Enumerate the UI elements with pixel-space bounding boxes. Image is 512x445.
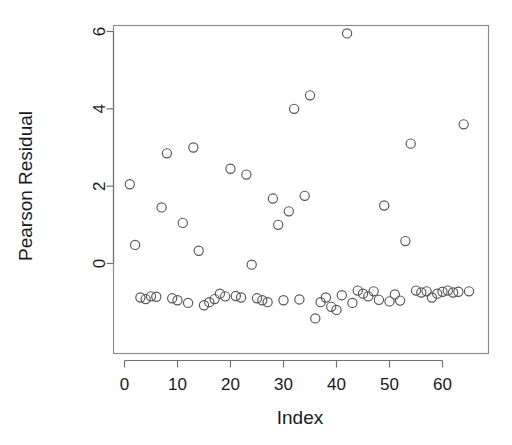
data-point — [274, 220, 283, 229]
data-point — [199, 301, 208, 310]
data-point — [396, 296, 405, 305]
data-point — [332, 305, 341, 314]
data-point — [279, 296, 288, 305]
y-axis: 0246 — [90, 27, 114, 268]
x-axis-ticks — [125, 361, 443, 368]
data-point — [252, 294, 261, 303]
data-point — [242, 170, 251, 179]
x-tick-label: 60 — [433, 375, 452, 394]
data-point — [178, 218, 187, 227]
x-tick-label: 30 — [274, 375, 293, 394]
x-tick-label: 20 — [221, 375, 240, 394]
data-point — [152, 292, 161, 301]
data-point — [141, 294, 150, 303]
data-point — [327, 302, 336, 311]
y-axis-title: Pearson Residual — [15, 111, 36, 261]
y-axis-tick-labels: 0246 — [90, 27, 109, 268]
data-point — [168, 294, 177, 303]
data-point — [411, 286, 420, 295]
x-axis-tick-labels: 0102030405060 — [120, 375, 452, 394]
data-point — [162, 149, 171, 158]
data-point — [380, 201, 389, 210]
scatter-plot-figure: 0246 0102030405060 Pearson Residual Inde… — [0, 0, 512, 445]
data-point — [364, 292, 373, 301]
data-point — [353, 286, 362, 295]
data-point — [464, 287, 473, 296]
data-point — [221, 292, 230, 301]
data-point — [125, 180, 134, 189]
y-tick-label: 6 — [90, 27, 109, 36]
data-point — [157, 203, 166, 212]
data-point — [343, 29, 352, 38]
data-points-layer — [125, 29, 473, 323]
data-point — [295, 295, 304, 304]
y-tick-label: 4 — [90, 104, 109, 113]
data-point — [454, 287, 463, 296]
data-point — [210, 294, 219, 303]
data-point — [459, 120, 468, 129]
data-point — [231, 291, 240, 300]
y-tick-label: 0 — [90, 259, 109, 268]
y-tick-label: 2 — [90, 181, 109, 190]
x-tick-label: 10 — [168, 375, 187, 394]
plot-canvas: 0246 0102030405060 Pearson Residual Inde… — [0, 0, 512, 445]
y-axis-ticks — [107, 32, 114, 264]
data-point — [305, 91, 314, 100]
data-point — [401, 236, 410, 245]
data-point — [247, 260, 256, 269]
x-axis: 0102030405060 — [120, 361, 452, 394]
data-point — [311, 314, 320, 323]
data-point — [215, 289, 224, 298]
data-point — [374, 295, 383, 304]
data-point — [406, 139, 415, 148]
data-point — [443, 286, 452, 295]
data-point — [390, 290, 399, 299]
data-point — [189, 143, 198, 152]
data-point — [300, 191, 309, 200]
data-point — [194, 246, 203, 255]
data-point — [184, 298, 193, 307]
data-point — [237, 293, 246, 302]
data-point — [258, 296, 267, 305]
data-point — [268, 194, 277, 203]
data-point — [173, 296, 182, 305]
data-point — [358, 289, 367, 298]
data-point — [348, 298, 357, 307]
data-point — [369, 287, 378, 296]
data-point — [337, 291, 346, 300]
data-point — [284, 207, 293, 216]
x-tick-label: 50 — [380, 375, 399, 394]
data-point — [226, 164, 235, 173]
x-axis-title: Index — [277, 407, 324, 428]
data-point — [290, 104, 299, 113]
x-tick-label: 0 — [120, 375, 129, 394]
data-point — [131, 240, 140, 249]
x-tick-label: 40 — [327, 375, 346, 394]
data-point — [205, 298, 214, 307]
data-point — [263, 298, 272, 307]
data-point — [422, 287, 431, 296]
data-point — [136, 293, 145, 302]
